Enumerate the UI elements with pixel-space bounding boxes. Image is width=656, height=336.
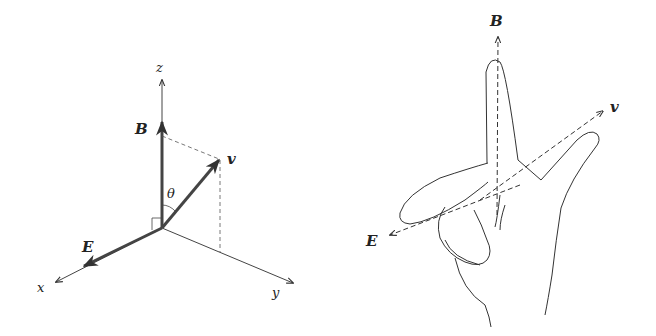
B-label: B <box>134 120 148 138</box>
E-vector <box>84 228 162 266</box>
E-label: E <box>81 238 94 256</box>
hand-v-label: v <box>610 98 619 116</box>
theta-arc <box>162 205 176 212</box>
theta-label: θ <box>167 186 175 201</box>
y-axis <box>162 228 293 283</box>
y-axis-label: y <box>271 285 280 300</box>
B-axis-dashed <box>497 37 498 215</box>
v-label: v <box>227 150 236 168</box>
z-axis-label: z <box>155 60 163 75</box>
figure: z x y B E v θ B v E <box>0 0 656 336</box>
hand-B-label: B <box>489 12 503 30</box>
coordinate-diagram: z x y B E v θ <box>37 60 293 300</box>
right-hand-rule-illustration: B v E <box>365 12 619 327</box>
v-axis-dashed <box>480 111 603 200</box>
hand-E-label: E <box>365 232 378 250</box>
dashed-projection-top <box>162 136 219 159</box>
finger-detail <box>495 195 505 230</box>
hand-outline <box>400 60 599 327</box>
x-axis-label: x <box>37 280 45 295</box>
